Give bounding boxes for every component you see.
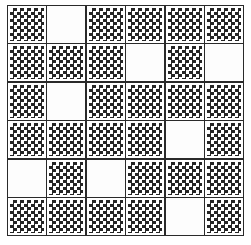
dotted-cell-r0-c4 [166,6,204,43]
dotted-cell-r4-c3 [126,160,164,197]
dotted-cell-r3-c1 [47,121,85,158]
dotted-cell-r1-c2 [87,44,125,81]
dotted-cell-r4-c1 [47,160,85,197]
dotted-cell-r3-c5 [205,121,243,158]
dotted-cell-r3-c0 [8,121,46,158]
dotted-cell-r3-c2 [87,121,125,158]
white-cell-r1-c3 [126,44,164,81]
dotted-cell-r0-c2 [87,6,125,43]
dotted-cell-r4-c5 [205,160,243,197]
dotted-cell-r2-c2 [87,83,125,120]
dotted-cell-r3-c3 [126,121,164,158]
dotted-cell-r5-c0 [8,198,46,235]
dotted-cell-r1-c1 [47,44,85,81]
dotted-cell-r1-c4 [166,44,204,81]
white-cell-r1-c5 [205,44,243,81]
white-cell-r0-c1 [47,6,85,43]
dotted-cell-r5-c5 [205,198,243,235]
white-cell-r4-c0 [8,160,46,197]
dotted-cell-r2-c5 [205,83,243,120]
dotted-cell-r5-c1 [47,198,85,235]
pattern-grid [7,5,244,236]
dotted-cell-r1-c0 [8,44,46,81]
white-cell-r4-c2 [87,160,125,197]
white-cell-r2-c1 [47,83,85,120]
dotted-cell-r0-c3 [126,6,164,43]
dotted-cell-r4-c4 [166,160,204,197]
dotted-cell-r0-c5 [205,6,243,43]
dotted-cell-r0-c0 [8,6,46,43]
white-cell-r3-c4 [166,121,204,158]
dotted-cell-r2-c4 [166,83,204,120]
dotted-cell-r5-c3 [126,198,164,235]
dotted-cell-r5-c2 [87,198,125,235]
dotted-cell-r2-c3 [126,83,164,120]
dotted-cell-r2-c0 [8,83,46,120]
white-cell-r5-c4 [166,198,204,235]
